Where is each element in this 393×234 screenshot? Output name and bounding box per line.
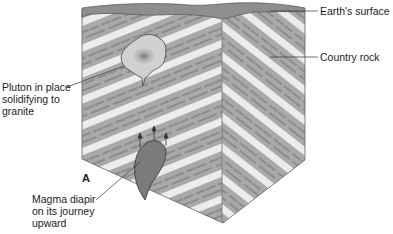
right-face-country-rock: [222, 8, 305, 223]
label-country-rock: Country rock: [320, 51, 380, 63]
label-pluton: Pluton in place solidifying to granite: [2, 81, 71, 117]
label-diapir: Magma diapir on its journey upward: [32, 193, 96, 229]
panel-letter: A: [82, 172, 90, 184]
label-earth-surface: Earth's surface: [320, 5, 390, 17]
